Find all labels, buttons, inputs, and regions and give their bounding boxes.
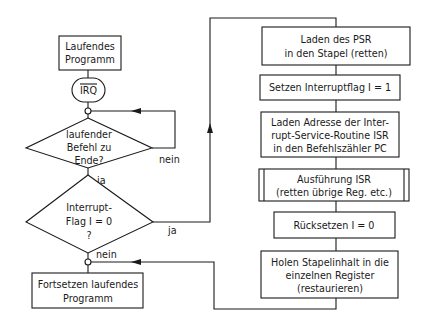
- decision1-line-3: Ende?: [74, 155, 103, 166]
- step-restore-registers: Holen Stapelinhalt in die einzelnen Regi…: [261, 251, 398, 298]
- end-box-line-1: Fortsetzen laufendes: [38, 279, 138, 290]
- step1-line-2: in den Stapel (retten): [285, 48, 388, 59]
- decision1-line-1: laufender: [66, 129, 112, 140]
- start-box-line-2: Programm: [65, 54, 115, 65]
- step4-line-2: (retten übrige Reg. etc.): [276, 187, 392, 198]
- decision2-line-2: Flag I = 0: [66, 216, 112, 227]
- step3-line-3: in den Befehlszähler PC: [273, 143, 387, 154]
- interrupt-flowchart: Laufendes Programm IRQ laufender Befehl …: [0, 0, 430, 330]
- step6-line-3: (restaurieren): [297, 283, 363, 294]
- step3-line-2: rupt-Service-Routine ISR: [271, 130, 389, 141]
- end-box: Fortsetzen laufendes Programm: [32, 273, 143, 308]
- step-set-flag: Setzen Interruptflag I = 1: [260, 75, 400, 100]
- step-push-psr: Laden des PSR in den Stapel (retten): [262, 27, 410, 65]
- step4-line-1: Ausführung ISR: [297, 174, 371, 185]
- step-load-isr-address: Laden Adresse der Inter- rupt-Service-Ro…: [261, 112, 399, 157]
- step3-line-1: Laden Adresse der Inter-: [271, 117, 389, 128]
- irq-terminator: IRQ: [72, 78, 105, 102]
- step-reset-flag: Rücksetzen I = 0: [274, 212, 395, 238]
- irq-label: IRQ: [80, 85, 97, 96]
- decision2-ja-label: ja: [167, 225, 177, 236]
- start-box-line-1: Laufendes: [65, 41, 115, 52]
- arrow-up-icon: [207, 123, 213, 133]
- decision-1: laufender Befehl zu Ende?: [26, 118, 152, 168]
- start-box: Laufendes Programm: [59, 36, 121, 70]
- end-box-line-2: Programm: [63, 293, 113, 304]
- step6-line-1: Holen Stapelinhalt in die: [271, 257, 389, 268]
- decision1-line-2: Befehl zu: [67, 142, 112, 153]
- step-execute-isr-subroutine: Ausführung ISR (retten übrige Reg. etc.): [259, 169, 409, 201]
- step2-line-1: Setzen Interruptflag I = 1: [269, 82, 391, 93]
- junction-circle-1: [85, 108, 91, 114]
- arrow-left-icon: [131, 108, 141, 114]
- decision2-nein-label: nein: [96, 249, 117, 260]
- step6-line-2: einzelnen Register: [286, 270, 375, 281]
- arrow-left-icon: [131, 259, 141, 265]
- decision-2: Interrupt- Flag I = 0 ?: [26, 175, 153, 253]
- decision2-line-1: Interrupt-: [66, 202, 112, 213]
- junction-circle-2: [85, 259, 91, 265]
- step1-line-1: Laden des PSR: [301, 34, 372, 45]
- decision2-line-3: ?: [86, 230, 91, 241]
- step5-line-1: Rücksetzen I = 0: [294, 220, 375, 231]
- decision1-nein-label: nein: [159, 154, 180, 165]
